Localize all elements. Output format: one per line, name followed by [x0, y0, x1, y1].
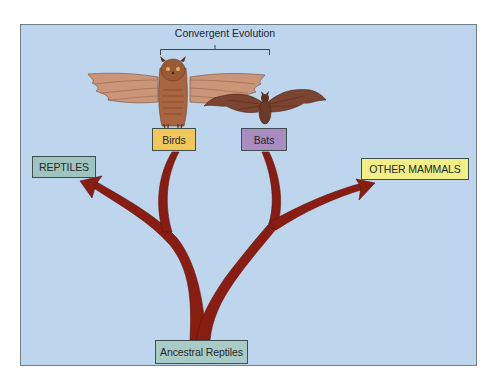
reptiles-label: REPTILES	[32, 156, 96, 178]
ancestral-reptiles-label: Ancestral Reptiles	[155, 340, 248, 364]
bats-label: Bats	[241, 128, 287, 151]
owl-icon	[88, 56, 265, 129]
trunk	[196, 225, 276, 340]
convergence-bracket	[161, 45, 270, 55]
branch-other-mammals	[270, 183, 364, 230]
birds-label: Birds	[152, 128, 196, 151]
other-mammals-label: OTHER MAMMALS	[361, 158, 469, 180]
branch-reptiles	[92, 181, 206, 340]
convergent-evolution-title: Convergent Evolution	[160, 27, 290, 39]
branch-birds	[159, 152, 179, 232]
branches	[80, 152, 375, 340]
phylogeny-tree	[0, 0, 495, 378]
